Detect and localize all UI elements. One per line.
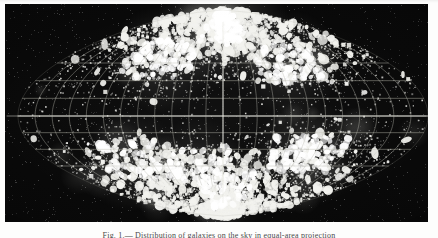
figure-page: Fig. 1.— Distribution of galaxies on the…: [0, 0, 438, 238]
figure-caption: Fig. 1.— Distribution of galaxies on the…: [0, 231, 438, 238]
sky-map-plate: [5, 4, 428, 222]
sky-map-graticule: [5, 4, 428, 222]
